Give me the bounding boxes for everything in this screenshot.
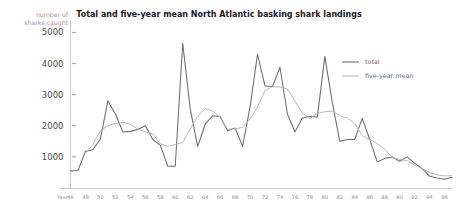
x-tick-label: 94 xyxy=(426,194,433,200)
series-line-five-year-mean xyxy=(85,87,452,176)
y-tick-label: 2000 xyxy=(42,121,64,131)
y-tick-label: 4000 xyxy=(42,59,64,69)
series-line-total xyxy=(71,43,453,179)
chart-container: Total and five-year mean North Atlantic … xyxy=(0,0,457,221)
x-tick-label: 82 xyxy=(336,194,343,200)
x-tick-label: 66 xyxy=(217,194,224,200)
x-tick-label: 48 xyxy=(82,194,89,200)
chart-legend: totalfive-year mean xyxy=(342,58,413,80)
x-axis-ticks: 4648505254565860626466687072747678808284… xyxy=(67,194,448,200)
y-tick-label: 1000 xyxy=(42,152,64,162)
x-tick-label: 46 xyxy=(67,194,74,200)
x-tick-label: 60 xyxy=(172,194,179,200)
x-tick-label: 56 xyxy=(142,194,149,200)
x-tick-label: 86 xyxy=(366,194,373,200)
basking-shark-landings-chart: Total and five-year mean North Atlantic … xyxy=(0,0,457,221)
x-tick-label: 68 xyxy=(232,194,239,200)
x-tick-label: 96 xyxy=(441,194,448,200)
series-lines xyxy=(71,43,453,179)
x-tick-label: 92 xyxy=(411,194,418,200)
x-tick-label: 84 xyxy=(351,194,358,200)
y-axis-title-line2: sharks caught xyxy=(24,19,68,27)
y-axis-title-line1: number of xyxy=(36,11,69,18)
x-tick-label: 90 xyxy=(396,194,403,200)
x-tick-label: 58 xyxy=(157,194,164,200)
x-tick-label: 52 xyxy=(112,194,119,200)
legend-label-total: total xyxy=(365,58,380,66)
x-tick-label: 70 xyxy=(247,194,254,200)
x-tick-label: 72 xyxy=(262,194,269,200)
y-tick-label: 5000 xyxy=(42,27,64,37)
x-tick-label: 88 xyxy=(381,194,388,200)
chart-title: Total and five-year mean North Atlantic … xyxy=(76,10,362,19)
x-tick-label: 54 xyxy=(127,194,134,200)
x-tick-label: 74 xyxy=(277,194,284,200)
legend-label-five-year-mean: five-year mean xyxy=(365,72,413,80)
y-tick-label: 3000 xyxy=(42,90,64,100)
x-axis-label: Year xyxy=(56,194,69,200)
x-tick-label: 62 xyxy=(187,194,194,200)
x-tick-label: 80 xyxy=(322,194,329,200)
x-tick-label: 50 xyxy=(97,194,104,200)
y-axis-title: number of sharks caught xyxy=(24,11,68,27)
x-tick-label: 64 xyxy=(202,194,209,200)
x-tick-label: 76 xyxy=(292,194,299,200)
x-tick-label: 78 xyxy=(307,194,314,200)
